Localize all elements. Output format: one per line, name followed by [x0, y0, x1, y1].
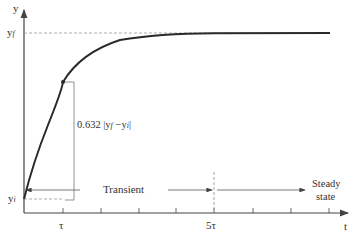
step-response-diagram — [0, 0, 357, 239]
transient-label: Transient — [100, 184, 147, 195]
tau-point-marker — [61, 80, 65, 84]
five-tau-tick-label: 5τ — [206, 220, 216, 231]
tau-tick-label: τ — [59, 220, 63, 231]
response-curve — [24, 33, 330, 199]
rise-annotation: 0.632 |yf −yi| — [77, 120, 131, 131]
steady-state-label-line2: state — [316, 192, 335, 203]
x-ticks — [63, 208, 329, 213]
x-axis-label: t — [344, 221, 347, 232]
rise-bracket — [65, 82, 74, 200]
y-axis-label: y — [13, 3, 19, 14]
steady-state-label-line1: Steady — [312, 179, 341, 190]
final-value-label: yf — [7, 27, 15, 38]
initial-value-label: yi — [8, 193, 16, 204]
